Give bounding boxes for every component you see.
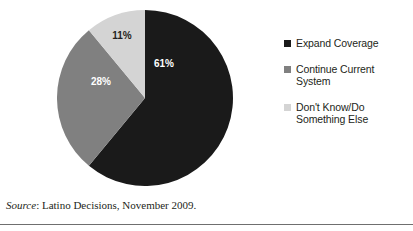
source-text: Latino Decisions, November 2009. [42,199,196,211]
legend-swatch-icon-expand-coverage [284,40,291,47]
pie-label-continue-current-system: 28% [91,76,111,87]
legend-item-dont-know[interactable]: Don't Know/Do Something Else [284,101,410,126]
legend-swatch-icon-dont-know [284,104,291,111]
pie-chart: 61% 28% 11% [57,10,233,186]
legend-label-dont-know: Don't Know/Do Something Else [296,101,410,126]
legend-label-expand-coverage: Expand Coverage [296,37,379,50]
figure-container: 61% 28% 11% Expand Coverage Continue Cur… [0,0,413,231]
legend-item-continue-current-system[interactable]: Continue Current System [284,63,410,88]
pie-label-dont-know: 11% [112,30,132,41]
pie-label-expand-coverage: 61% [154,58,174,69]
source-label: Source [6,199,36,211]
pie-chart-svg: 61% 28% 11% [57,10,233,186]
chart-legend: Expand Coverage Continue Current System … [284,37,410,139]
legend-label-continue-current-system: Continue Current System [296,63,410,88]
legend-item-expand-coverage[interactable]: Expand Coverage [284,37,410,50]
bottom-divider [0,224,413,225]
source-note: Source: Latino Decisions, November 2009. [6,199,196,211]
legend-swatch-icon-continue-current-system [284,66,291,73]
